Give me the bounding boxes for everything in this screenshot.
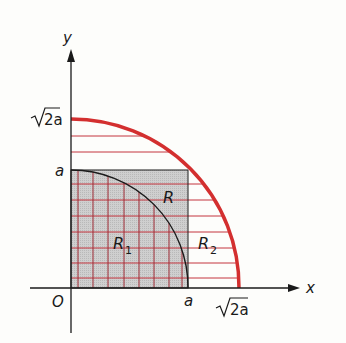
region-label-R: R bbox=[163, 188, 174, 207]
svg-text:2a: 2a bbox=[44, 111, 63, 129]
polar-region-diagram: y x O a 2a a 2a R R 1 R 2 bbox=[0, 0, 346, 343]
svg-text:R: R bbox=[113, 234, 124, 253]
y-axis-arrow-icon bbox=[67, 49, 75, 62]
x-axis-arrow-icon bbox=[288, 284, 300, 292]
y-tick-a: a bbox=[55, 162, 64, 180]
y-axis-label: y bbox=[62, 29, 73, 47]
x-axis-label: x bbox=[305, 279, 315, 297]
svg-text:1: 1 bbox=[125, 244, 132, 257]
svg-text:R: R bbox=[198, 234, 209, 253]
x-tick-a: a bbox=[184, 292, 193, 310]
y-tick-sqrt2a: 2a bbox=[31, 108, 63, 129]
svg-text:2: 2 bbox=[210, 244, 217, 257]
region-label-R2: R 2 bbox=[198, 234, 217, 257]
svg-text:2a: 2a bbox=[230, 301, 249, 319]
origin-label: O bbox=[52, 293, 64, 311]
x-tick-sqrt2a: 2a bbox=[216, 298, 249, 319]
